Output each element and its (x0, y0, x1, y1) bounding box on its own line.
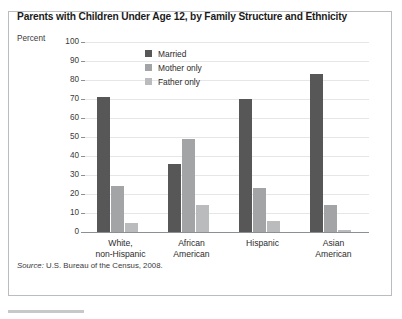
x-category-label-0: White,non-Hispanic (85, 238, 156, 259)
y-tick-label-30: 30 (57, 170, 79, 179)
legend-swatch-icon (145, 64, 152, 71)
x-category-label-1: AfricanAmerican (156, 238, 227, 259)
x-category-label-3: AsianAmerican (298, 238, 369, 259)
x-category-label-line: White, (85, 238, 156, 249)
chart-plot-wrapper: Percent 0102030405060708090100 White,non… (17, 34, 369, 254)
legend-label: Father only (158, 77, 200, 87)
bar-mother-only-3 (324, 205, 337, 232)
gridline-30 (85, 175, 369, 176)
legend-swatch-icon (145, 50, 152, 57)
y-tick-label-40: 40 (57, 151, 79, 160)
y-axis-title: Percent (17, 34, 45, 43)
legend-item-mother-only: Mother only (145, 61, 265, 74)
legend-label: Married (158, 49, 186, 59)
x-category-label-line: Hispanic (227, 238, 298, 249)
bar-married-1 (168, 164, 181, 232)
x-category-label-line: American (298, 249, 369, 260)
legend-item-father-only: Father only (145, 75, 265, 88)
gridline-60 (85, 118, 369, 119)
y-tick-label-20: 20 (57, 189, 79, 198)
y-tick-label-0: 0 (57, 227, 79, 236)
y-tick-label-70: 70 (57, 94, 79, 103)
gridline-0 (85, 232, 369, 233)
source-label: Source: (17, 261, 44, 270)
y-tick-label-90: 90 (57, 56, 79, 65)
y-tick-label-60: 60 (57, 113, 79, 122)
gridline-20 (85, 194, 369, 195)
bar-father-only-3 (338, 230, 351, 232)
bar-father-only-1 (196, 205, 209, 232)
chart-legend: MarriedMother onlyFather only (145, 47, 265, 89)
x-category-label-line: non-Hispanic (85, 249, 156, 260)
chart-title: Parents with Children Under Age 12, by F… (17, 11, 367, 23)
bar-mother-only-2 (253, 188, 266, 232)
gridline-100 (85, 42, 369, 43)
gridline-50 (85, 137, 369, 138)
bar-married-2 (239, 99, 252, 232)
gridline-40 (85, 156, 369, 157)
x-category-label-line: Asian (298, 238, 369, 249)
y-tick-label-80: 80 (57, 75, 79, 84)
bar-father-only-0 (125, 223, 138, 233)
legend-swatch-icon (145, 78, 152, 85)
bar-married-3 (310, 74, 323, 232)
source-text: U.S. Bureau of the Census, 2008. (44, 261, 163, 270)
y-tick-label-50: 50 (57, 132, 79, 141)
bar-married-0 (97, 97, 110, 232)
y-tick-label-100: 100 (57, 37, 79, 46)
x-category-label-2: Hispanic (227, 238, 298, 249)
source-note: Source: U.S. Bureau of the Census, 2008. (17, 261, 163, 270)
y-tick-label-10: 10 (57, 208, 79, 217)
x-category-label-line: African (156, 238, 227, 249)
bottom-rule (8, 310, 84, 313)
gridline-70 (85, 99, 369, 100)
bar-mother-only-1 (182, 139, 195, 232)
legend-label: Mother only (158, 63, 202, 73)
bar-mother-only-0 (111, 186, 124, 232)
bar-father-only-2 (267, 221, 280, 232)
x-category-label-line: American (156, 249, 227, 260)
legend-item-married: Married (145, 47, 265, 60)
